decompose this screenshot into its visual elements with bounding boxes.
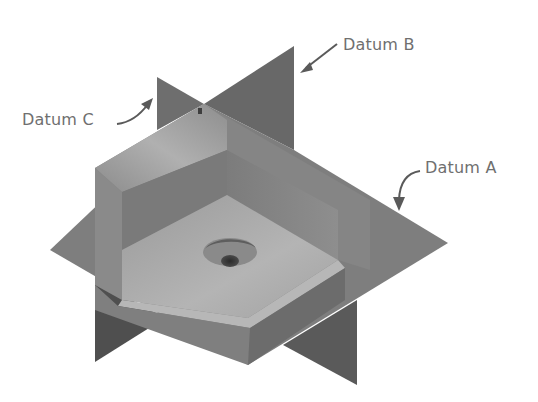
corner-mark xyxy=(198,108,202,114)
hole xyxy=(221,255,239,267)
datum-diagram: Datum B Datum C Datum A xyxy=(0,0,538,402)
arrow-datum-c xyxy=(117,104,148,124)
arrow-datum-a xyxy=(399,171,420,200)
arrow-datum-c-head xyxy=(141,98,153,110)
arrow-datum-a-head xyxy=(393,197,405,211)
datum-b-label: Datum B xyxy=(343,37,415,53)
part-illustration xyxy=(0,0,538,402)
datum-a-label: Datum A xyxy=(425,160,497,176)
datum-c-label: Datum C xyxy=(22,112,94,128)
